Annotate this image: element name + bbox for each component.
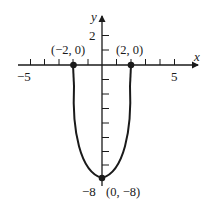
tick-label-neg5: −5 xyxy=(17,69,31,84)
point-label-right: (2, 0) xyxy=(116,43,143,57)
tick-label-5: 5 xyxy=(171,69,178,84)
point-right-intercept xyxy=(128,62,135,69)
point-vertex xyxy=(99,175,106,182)
x-axis-label: x xyxy=(193,49,200,64)
y-ticks xyxy=(102,36,109,166)
y-axis-label: y xyxy=(89,9,97,24)
tick-label-2: 2 xyxy=(89,28,96,43)
point-left-intercept xyxy=(70,62,77,69)
point-label-vertex: (0, −8) xyxy=(106,185,140,199)
tick-label-neg8: −8 xyxy=(82,184,96,199)
parabola-graph: y x 2 −5 5 (−2, 0) (2, 0) −8 (0, −8) xyxy=(0,0,213,212)
point-label-left: (−2, 0) xyxy=(51,43,85,57)
